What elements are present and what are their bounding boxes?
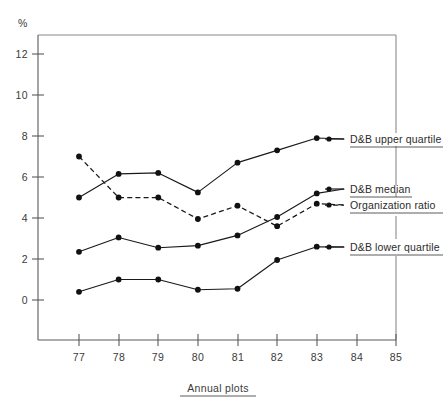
data-point — [314, 201, 320, 207]
legend-marker — [326, 186, 331, 191]
y-tick-label: 10 — [16, 89, 28, 101]
data-point — [314, 191, 320, 197]
chart-figure: % 12 10 8 6 4 2 0 77 78 79 — [0, 0, 443, 406]
data-point — [155, 277, 161, 283]
legend-entry-db-lower-quartile[interactable]: D&B lower quartile — [325, 241, 443, 255]
data-point — [274, 147, 280, 153]
data-point — [235, 203, 241, 209]
y-tick-label: 6 — [22, 171, 28, 183]
data-point — [195, 216, 201, 222]
y-axis-unit-label: % — [18, 17, 27, 29]
data-point — [235, 160, 241, 166]
x-tick-label: 77 — [73, 351, 85, 363]
y-tick-label: 8 — [22, 130, 28, 142]
x-axis-title: Annual plots — [187, 382, 248, 394]
legend-label: D&B median — [350, 183, 410, 195]
legend-entry-organization-ratio[interactable]: Organization ratio — [325, 199, 443, 213]
y-tick-label: 0 — [22, 294, 28, 306]
x-tick-label: 83 — [311, 351, 323, 363]
y-tick-label: 2 — [22, 253, 28, 265]
series-d-b-lower-quartile — [76, 244, 344, 295]
data-point — [116, 171, 122, 177]
x-tick-label: 79 — [152, 351, 164, 363]
legend-marker — [326, 202, 331, 207]
line-chart: % 12 10 8 6 4 2 0 77 78 79 — [0, 0, 443, 406]
x-tick-label: 80 — [192, 351, 204, 363]
data-point — [76, 289, 82, 295]
x-tick-label: 85 — [390, 351, 402, 363]
legend-entry-db-upper-quartile[interactable]: D&B upper quartile — [325, 133, 443, 147]
data-point — [155, 170, 161, 176]
data-point — [274, 257, 280, 263]
data-point — [195, 243, 201, 249]
data-point — [235, 233, 241, 239]
data-point — [235, 286, 241, 292]
series-line — [79, 157, 344, 227]
y-axis-ticks: 12 10 8 6 4 2 0 — [16, 48, 44, 306]
x-tick-label: 84 — [351, 351, 363, 363]
data-point — [76, 249, 82, 255]
data-point — [116, 195, 122, 201]
legend-label: D&B lower quartile — [350, 241, 440, 253]
legend-marker — [326, 244, 331, 249]
data-point — [314, 244, 320, 250]
x-axis-title-group: Annual plots — [180, 382, 256, 396]
plot-frame — [38, 35, 396, 340]
data-point — [76, 195, 82, 201]
x-tick-label: 78 — [113, 351, 125, 363]
legend-label: Organization ratio — [350, 199, 436, 211]
legend-marker — [326, 136, 331, 141]
y-tick-label: 12 — [16, 48, 28, 60]
chart-legend: D&B upper quartile D&B median Organizati… — [325, 133, 443, 255]
y-tick-label: 4 — [22, 212, 28, 224]
series-d-b-upper-quartile — [76, 135, 344, 200]
series-line — [79, 138, 344, 197]
legend-label: D&B upper quartile — [350, 133, 441, 145]
data-point — [76, 154, 82, 160]
data-point — [155, 245, 161, 251]
data-point — [314, 135, 320, 141]
data-point — [155, 195, 161, 201]
data-point — [195, 189, 201, 195]
data-point — [274, 223, 280, 229]
x-tick-label: 81 — [232, 351, 244, 363]
data-series-layer — [76, 135, 344, 295]
data-point — [116, 277, 122, 283]
data-point — [195, 287, 201, 293]
series-line — [79, 247, 344, 292]
series-organization-ratio — [76, 154, 344, 230]
x-axis-ticks: 77 78 79 80 81 82 83 84 85 — [73, 334, 402, 363]
x-tick-label: 82 — [271, 351, 283, 363]
data-point — [116, 235, 122, 241]
data-point — [274, 214, 280, 220]
